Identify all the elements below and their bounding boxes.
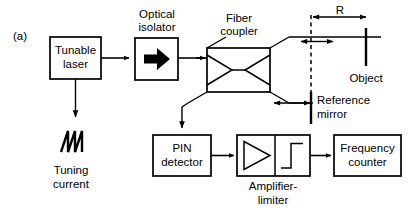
pin-detector-label-line2: detector [161, 156, 203, 168]
range-label: R [336, 4, 344, 16]
fiber-coupler-caption-line1: Fiber [226, 12, 252, 24]
link-coupler-to-pin-detector [182, 103, 188, 128]
pin-detector-label-line1: PIN [172, 142, 191, 154]
amplifier-limiter-caption-line2: limiter [258, 194, 289, 206]
coupler-diagonal-lower-right [270, 92, 289, 103]
panel-label: (a) [13, 30, 27, 42]
reference-mirror-label-line1: Reference [317, 94, 370, 106]
sawtooth-waveform-icon [61, 131, 82, 152]
optical-isolator-caption-line1: Optical [139, 8, 175, 20]
amplifier-limiter-box [237, 135, 310, 176]
optical-isolator-caption-line2: isolator [138, 21, 175, 33]
coupler-diagonal-lower-left [188, 92, 207, 103]
amplifier-limiter-caption-line1: Amplifier- [249, 180, 298, 192]
object-label: Object [349, 72, 383, 84]
tuning-current-label-line2: current [53, 178, 90, 190]
coupler-diagonal-upper-left [207, 37, 226, 48]
tunable-laser-label-line1: Tunable [55, 44, 96, 56]
tunable-laser-label-line2: laser [63, 58, 88, 70]
block-diagram-figure: (a) Tunable laser Tuning current Optical… [0, 0, 415, 220]
frequency-counter-label-line1: Frequency [340, 142, 395, 154]
frequency-counter-label-line2: counter [348, 156, 387, 168]
tuning-current-label-line1: Tuning [54, 164, 89, 176]
coupler-diagonal-upper-right [270, 37, 289, 48]
reference-mirror-label-line2: mirror [317, 108, 347, 120]
fiber-coupler-caption-line2: coupler [220, 25, 258, 37]
diagram-canvas: (a) Tunable laser Tuning current Optical… [0, 0, 415, 220]
